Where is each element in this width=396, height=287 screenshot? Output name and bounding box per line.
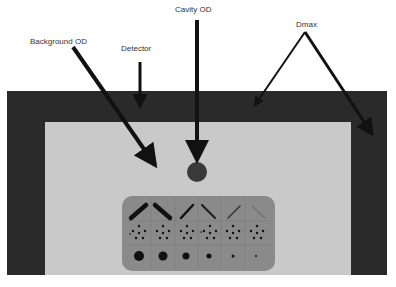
cavity-od-label: Cavity OD [175,5,211,14]
dmax-label: Dmax [296,20,317,29]
background-od-label: Background OD [30,37,87,46]
detector-label: Detector [121,44,151,53]
test-panel [122,196,275,271]
cavity-spot [187,162,207,182]
